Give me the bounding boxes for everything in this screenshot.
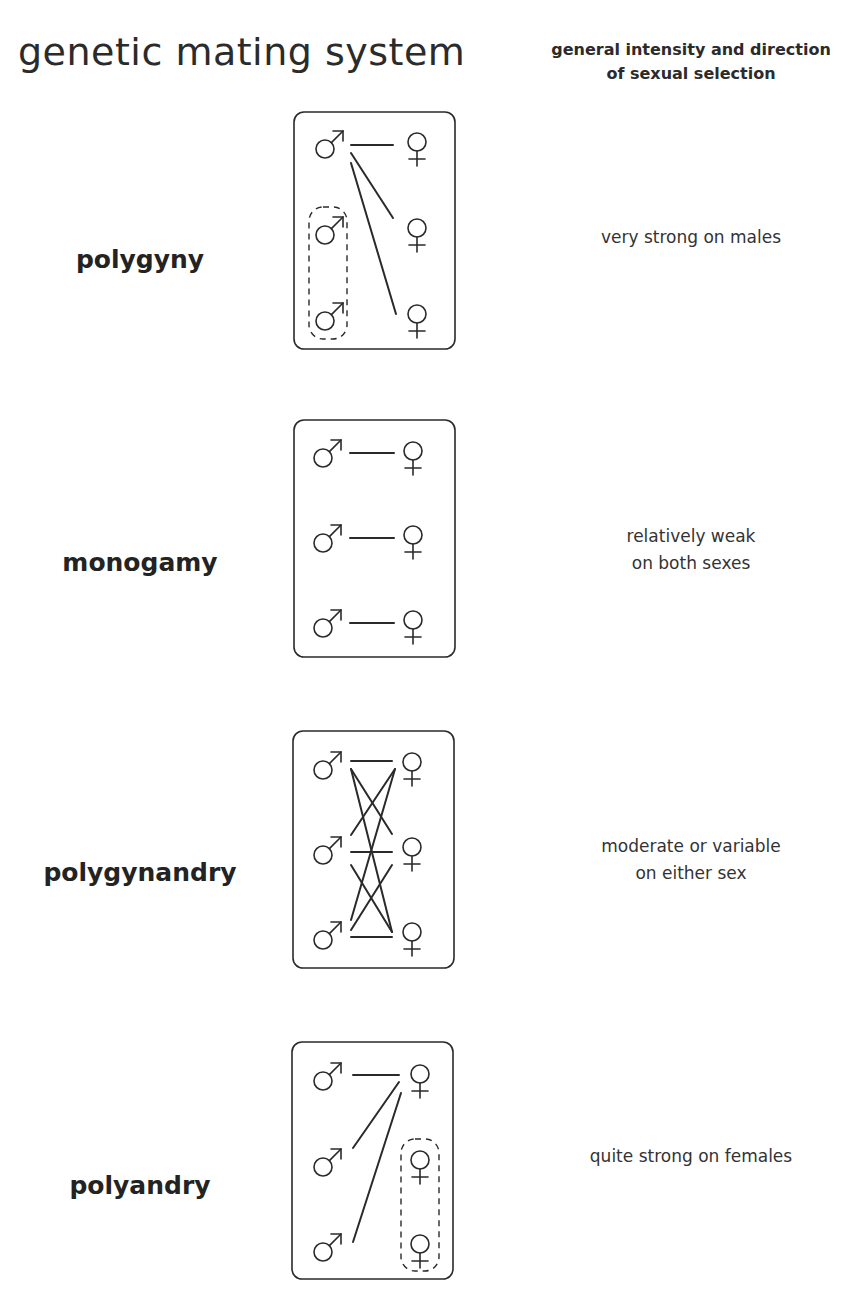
male-icon — [316, 131, 343, 158]
female-icon — [403, 753, 421, 786]
diagram-title: genetic mating system — [18, 30, 465, 74]
description-line-1: moderate or variable — [540, 833, 842, 860]
selection-description-polygyny: very strong on males — [540, 224, 842, 251]
male-icon — [314, 922, 341, 949]
male-icon — [314, 440, 341, 467]
male-icon — [314, 610, 341, 637]
female-icon — [408, 305, 426, 338]
female-icon — [411, 1065, 429, 1098]
male-icon — [314, 837, 341, 864]
female-icon — [403, 923, 421, 956]
description-line-2: on both sexes — [540, 550, 842, 577]
selection-description-polygynandry: moderate or variable on either sex — [540, 833, 842, 887]
column-header-line-1: general intensity and direction — [540, 38, 842, 62]
system-label-monogamy: monogamy — [0, 548, 280, 577]
female-icon — [403, 838, 421, 871]
description-line-1: quite strong on females — [540, 1143, 842, 1170]
female-icon — [408, 133, 426, 166]
male-icon — [314, 1149, 341, 1176]
system-label-polygyny: polygyny — [0, 245, 280, 274]
description-line-1: very strong on males — [540, 224, 842, 251]
female-icon — [411, 1235, 429, 1268]
selection-description-polyandry: quite strong on females — [540, 1143, 842, 1170]
diagram-monogamy — [293, 419, 457, 659]
column-header-selection: general intensity and direction of sexua… — [540, 38, 842, 86]
female-icon — [411, 1151, 429, 1184]
description-line-2: on either sex — [540, 860, 842, 887]
system-label-polygynandry: polygynandry — [0, 858, 280, 887]
diagram-polygynandry — [292, 730, 456, 970]
selection-description-monogamy: relatively weak on both sexes — [540, 523, 842, 577]
female-icon — [404, 526, 422, 559]
female-icon — [408, 219, 426, 252]
system-label-polyandry: polyandry — [0, 1171, 280, 1200]
diagram-polygyny — [293, 111, 457, 351]
male-icon — [314, 525, 341, 552]
male-icon — [316, 303, 343, 330]
male-icon — [314, 752, 341, 779]
male-icon — [314, 1234, 341, 1261]
male-icon — [316, 217, 343, 244]
female-icon — [404, 442, 422, 475]
female-icon — [404, 611, 422, 644]
column-header-line-2: of sexual selection — [540, 62, 842, 86]
male-icon — [314, 1063, 341, 1090]
description-line-1: relatively weak — [540, 523, 842, 550]
diagram-polyandry — [291, 1041, 455, 1281]
